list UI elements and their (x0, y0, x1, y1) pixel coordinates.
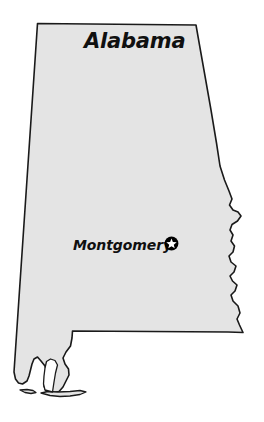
state-title-label: Alabama (84, 31, 185, 52)
capital-city-label: Montgomery (73, 238, 172, 252)
star-in-circle-icon (164, 236, 179, 251)
state-map-figure: Alabama Montgomery (0, 0, 264, 422)
alabama-landmass-path (14, 24, 243, 394)
alabama-state-outline (0, 0, 264, 422)
barrier-island-west-path (20, 390, 36, 394)
